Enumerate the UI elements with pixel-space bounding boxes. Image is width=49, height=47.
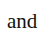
word-text: and [7, 9, 37, 33]
